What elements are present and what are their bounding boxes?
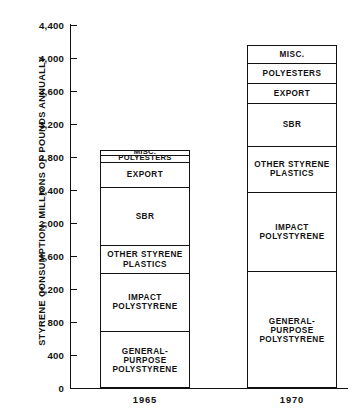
stacked-bar-1965: MISC.POLYESTERSEXPORTSBROTHER STYRENE PL… <box>100 150 190 388</box>
bar-segment-label: EXPORT <box>126 170 164 179</box>
bar-segment: EXPORT <box>248 84 336 104</box>
bar-segment-label: OTHER STYRENE PLASTICS <box>106 250 183 268</box>
bar-segment: SBR <box>101 188 189 247</box>
stacked-bar-1970: MISC.POLYESTERSEXPORTSBROTHER STYRENE PL… <box>247 45 337 388</box>
bar-segment: SBR <box>248 104 336 148</box>
y-tick-mark <box>70 190 77 191</box>
chart-canvas: STYRENE CONSUMPTION, MILLIONS OF POUNDS … <box>0 0 359 416</box>
bar-segment: MISC. <box>248 46 336 64</box>
y-tick-mark <box>70 289 77 290</box>
x-category-label-1970: 1970 <box>247 394 337 405</box>
y-tick-label: 800 <box>20 317 64 328</box>
bar-segment-label: GENERAL- PURPOSE POLYSTYRENE <box>258 317 325 345</box>
y-tick-mark <box>70 157 77 158</box>
y-tick-mark <box>70 256 77 257</box>
y-axis-tick-labels: 04008001,2001,6002,0002,4002,8003,2003,6… <box>16 0 64 416</box>
y-tick-label: 2,000 <box>20 218 64 229</box>
bar-segment: GENERAL- PURPOSE POLYSTYRENE <box>101 332 189 389</box>
bar-segment-label: POLYESTERS <box>117 156 172 163</box>
y-tick-mark <box>70 25 77 26</box>
bar-segment: OTHER STYRENE PLASTICS <box>101 246 189 274</box>
y-tick-label: 4,400 <box>20 20 64 31</box>
y-tick-mark <box>70 91 77 92</box>
y-tick-label: 1,600 <box>20 251 64 262</box>
bar-segment: OTHER STYRENE PLASTICS <box>248 147 336 192</box>
bar-segment-label: GENERAL- PURPOSE POLYSTYRENE <box>111 347 178 375</box>
y-tick-label: 0 <box>20 383 64 394</box>
y-tick-label: 2,400 <box>20 185 64 196</box>
bar-segment-label: IMPACT POLYSTYRENE <box>258 223 325 241</box>
y-tick-mark <box>70 388 77 389</box>
bar-segment-label: POLYESTERS <box>262 69 323 78</box>
bar-segment-label: SBR <box>135 212 156 221</box>
y-tick-label: 4,000 <box>20 53 64 64</box>
bar-segment: POLYESTERS <box>101 156 189 163</box>
bar-segment: IMPACT POLYSTYRENE <box>101 274 189 332</box>
bar-segment: POLYESTERS <box>248 64 336 84</box>
bar-segment-label: SBR <box>282 120 303 129</box>
y-tick-label: 400 <box>20 350 64 361</box>
bar-segment: GENERAL- PURPOSE POLYSTYRENE <box>248 272 336 389</box>
y-tick-mark <box>70 58 77 59</box>
x-category-label-1965: 1965 <box>100 394 190 405</box>
y-tick-label: 3,200 <box>20 119 64 130</box>
y-tick-label: 2,800 <box>20 152 64 163</box>
bar-segment: EXPORT <box>101 163 189 188</box>
y-tick-mark <box>70 124 77 125</box>
y-tick-label: 1,200 <box>20 284 64 295</box>
bar-segment: IMPACT POLYSTYRENE <box>248 193 336 272</box>
y-tick-label: 3,600 <box>20 86 64 97</box>
bar-segment-label: OTHER STYRENE PLASTICS <box>253 160 330 178</box>
y-tick-mark <box>70 223 77 224</box>
bar-segment-label: EXPORT <box>273 89 311 98</box>
bar-segment-label: MISC. <box>279 50 306 59</box>
y-tick-mark <box>70 355 77 356</box>
bar-segment-label: IMPACT POLYSTYRENE <box>111 293 178 311</box>
y-tick-mark <box>70 322 77 323</box>
